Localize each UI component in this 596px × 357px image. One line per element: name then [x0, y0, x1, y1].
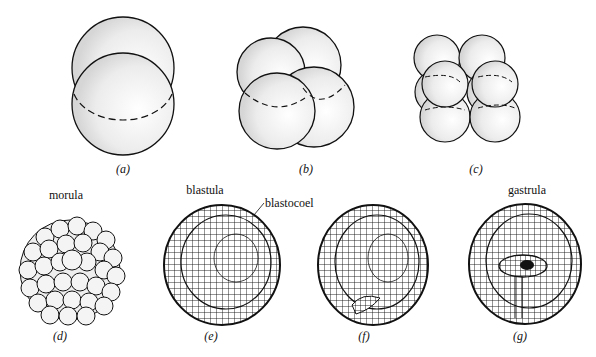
panel-c-caption: (c)	[469, 162, 482, 177]
panel-f-early-gastrulation-diagram	[318, 205, 428, 325]
panel-a-two-cell-diagram	[72, 17, 174, 155]
panel-f-caption: (f)	[358, 329, 369, 344]
panel-b-four-cell-diagram	[237, 27, 354, 149]
panel-e-caption: (e)	[204, 329, 217, 344]
panel-a-caption: (a)	[116, 162, 130, 177]
blastula-label: blastula	[186, 183, 223, 198]
panel-d-caption: (d)	[53, 329, 67, 344]
panel-b-caption: (b)	[299, 162, 313, 177]
panel-e-blastula-diagram	[164, 203, 280, 325]
blastocoel-annotation: blastocoel	[265, 196, 314, 211]
morula-label: morula	[49, 188, 83, 203]
panel-d-morula-diagram	[19, 217, 125, 325]
gastrula-label: gastrula	[508, 183, 546, 198]
panel-g-gastrula-diagram	[469, 204, 581, 324]
panel-g-caption: (g)	[513, 329, 527, 344]
panel-c-eight-cell-diagram	[414, 35, 520, 142]
